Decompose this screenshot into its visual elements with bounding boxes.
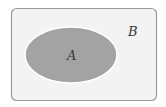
set-b-label: B — [127, 24, 138, 39]
venn-diagram: A B — [0, 0, 166, 107]
set-a-label: A — [66, 48, 76, 63]
